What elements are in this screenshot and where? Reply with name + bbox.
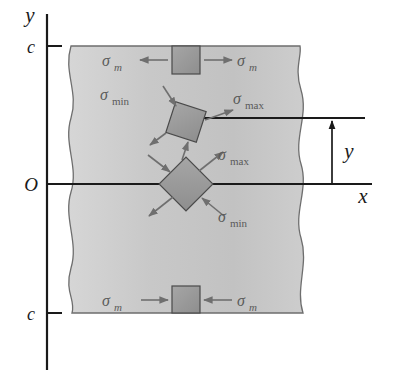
dimension-y-label: y [342,139,354,163]
bottom-element-square [172,286,200,313]
svg-text:σ: σ [102,292,111,309]
svg-text:min: min [112,95,130,107]
svg-text:σ: σ [100,86,109,103]
svg-text:σ: σ [218,208,227,225]
svg-text:max: max [245,99,264,111]
svg-text:m: m [249,301,257,313]
svg-text:σ: σ [218,146,227,163]
svg-text:min: min [230,217,248,229]
tick-bottom-label: c [27,304,35,324]
svg-text:σ: σ [102,52,111,69]
svg-text:σ: σ [233,90,242,107]
svg-text:σ: σ [237,52,246,69]
svg-text:σ: σ [237,292,246,309]
svg-text:m: m [114,61,122,73]
svg-text:max: max [230,155,249,167]
tick-top-label: c [27,37,35,57]
svg-text:m: m [114,301,122,313]
origin-label: O [24,174,38,195]
x-axis-label: x [357,184,368,208]
y-axis-label: y [23,3,35,27]
top-element-square [172,46,200,74]
svg-text:m: m [249,61,257,73]
stress-element-diagram: y x O c c y σ m σ m σ min σ max [0,0,395,380]
